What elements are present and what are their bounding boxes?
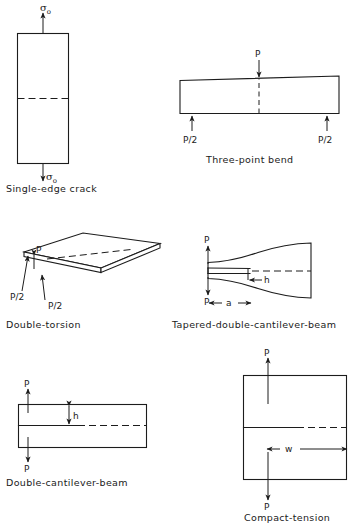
tapered-dcb-load-top-label: P: [204, 235, 210, 245]
single-edge-crack-load-top-label: σo: [40, 2, 51, 16]
dcb-h-label: h: [73, 411, 79, 421]
specimen-compact-tension: w P P Compact-tension: [244, 348, 348, 523]
three-point-bend-caption: Three-point bend: [205, 154, 293, 165]
specimen-tapered-double-cantilever-beam: h a P P Tapered-double-cantilever-beam: [171, 235, 336, 330]
double-torsion-load-front-label: P/2: [48, 301, 62, 311]
compact-tension-load-top-label: P: [264, 348, 270, 358]
double-torsion-top-face: [24, 233, 160, 268]
three-point-bend-load-left-label: P/2: [183, 135, 197, 145]
tapered-dcb-a-label: a: [226, 298, 232, 308]
specimen-double-torsion: P P/2 P/2 Double-torsion: [6, 233, 160, 330]
dcb-caption: Double-cantilever-beam: [6, 477, 128, 488]
tapered-dcb-body: [208, 243, 311, 298]
tapered-dcb-h-label: h: [264, 275, 270, 285]
double-torsion-load-upper-label: P: [36, 245, 42, 255]
dcb-load-top-label: P: [24, 379, 30, 389]
specimen-single-edge-crack: σo σo Single-edge crack: [6, 2, 97, 194]
specimen-three-point-bend: P P/2 P/2 Three-point bend: [180, 49, 339, 165]
specimen-double-cantilever-beam: h P P Double-cantilever-beam: [6, 379, 147, 488]
fracture-specimen-figure: σo σo Single-edge crack P P/2 P/2 Three-…: [0, 0, 356, 524]
compact-tension-load-bottom-label: P: [264, 502, 270, 512]
three-point-bend-load-center-label: P: [255, 49, 261, 59]
tapered-dcb-load-bottom-label: P: [204, 297, 210, 307]
dcb-load-bottom-label: P: [24, 464, 30, 474]
single-edge-crack-caption: Single-edge crack: [6, 183, 97, 194]
double-torsion-caption: Double-torsion: [6, 319, 81, 330]
double-torsion-load-arrow-front: [42, 275, 45, 300]
tapered-dcb-crack-upper: [208, 268, 250, 269]
compact-tension-w-label: w: [285, 444, 292, 454]
double-torsion-load-arrow-left: [22, 256, 28, 291]
compact-tension-caption: Compact-tension: [244, 512, 330, 523]
double-torsion-load-left-label: P/2: [10, 292, 24, 302]
tapered-dcb-caption: Tapered-double-cantilever-beam: [171, 319, 336, 330]
three-point-bend-load-right-label: P/2: [318, 135, 332, 145]
